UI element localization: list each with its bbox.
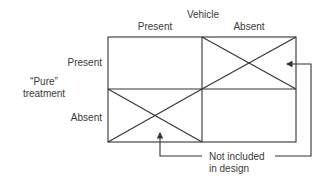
row-label-present: Present [40, 57, 102, 69]
annotation-line1: Not included [209, 151, 265, 163]
excluded-cell-cross-icon [108, 89, 202, 142]
row-factor-label-line1: “Pure” [14, 76, 74, 88]
callout-arrow-left [160, 133, 202, 156]
row-factor-label-line2: treatment [14, 88, 74, 100]
column-label-absent: Absent [224, 21, 274, 33]
column-label-present: Present [130, 21, 180, 33]
row-label-absent: Absent [40, 112, 102, 124]
column-factor-label: Vehicle [178, 9, 228, 21]
factorial-design-diagram: Vehicle Present Absent Present “Pure” tr… [0, 0, 327, 185]
annotation-line2: in design [209, 163, 249, 175]
excluded-cell-cross-icon [202, 37, 296, 89]
